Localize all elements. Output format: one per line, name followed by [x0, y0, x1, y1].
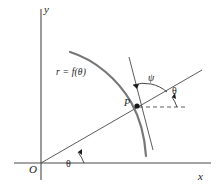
theta-angle-label-at-point: θ [172, 86, 177, 96]
y-axis-label: y [44, 4, 49, 15]
diagram-canvas [0, 0, 218, 188]
polar-diagram-figure: y x O r = f(θ) P ψ θ θ [0, 0, 218, 188]
point-p-marker [134, 103, 139, 108]
curve-equation-label: r = f(θ) [56, 68, 86, 78]
theta-angle-label-at-origin: θ [66, 159, 71, 169]
x-axis-label: x [198, 171, 203, 182]
theta-origin-arrowhead [78, 149, 82, 155]
theta-angle-arc-at-point [172, 97, 177, 107]
psi-angle-label: ψ [148, 73, 154, 83]
radial-line-from-origin [41, 70, 202, 163]
origin-label: O [29, 164, 37, 175]
point-p-label: P [124, 98, 130, 108]
